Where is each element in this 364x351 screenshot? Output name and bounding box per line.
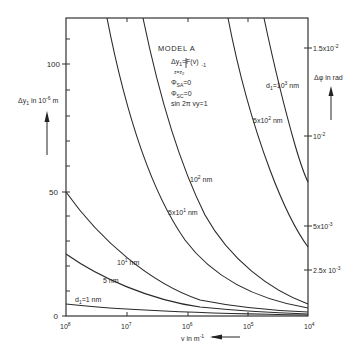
x-tick-1e7: 107 xyxy=(121,321,132,330)
y-tick-100: 100 xyxy=(47,60,61,69)
x-tick-1e8: 108 xyxy=(60,321,71,330)
curve-5nm xyxy=(66,254,308,314)
label-10nm: 101 nm xyxy=(117,257,139,266)
y2-axis-label: Δφ in rad xyxy=(314,74,343,82)
label-5nm: 5 nm xyxy=(103,277,119,284)
phi-sa-condition: ΦSA=0 xyxy=(171,79,191,88)
equation: Δy1=F(v)-1 xyxy=(171,58,206,68)
y2-tick-5e-3: 5x10-3 xyxy=(313,221,333,230)
x-tick-1e5: 105 xyxy=(243,321,254,330)
y2-tick-1.5e-2: 1.5x10-2 xyxy=(313,43,339,52)
curve-500nm xyxy=(228,18,308,247)
y2-tick-2.5e-3: 2.5x 10-3 xyxy=(313,265,341,274)
x-tick-1e4: 104 xyxy=(304,321,315,330)
x-tick-1e6: 106 xyxy=(182,321,193,330)
curve-1000nm xyxy=(264,18,308,182)
y2-axis-arrow-icon xyxy=(329,86,334,120)
y-axis-arrow-icon xyxy=(45,111,50,155)
label-50nm: 5x101 nm xyxy=(168,207,198,216)
phi-sc-condition: ΦSC=0 xyxy=(171,90,192,99)
y2-tick-1e-2: 10-2 xyxy=(313,131,325,140)
curve-100nm xyxy=(143,18,308,304)
y-axis-label: Δy1 in 10-6 m xyxy=(18,95,58,106)
y-tick-0: 0 xyxy=(54,312,59,321)
x-axis-arrow-icon xyxy=(210,335,240,340)
x-axis-label: v in m-1 xyxy=(181,333,204,342)
label-500nm: 5x102 nm xyxy=(253,115,283,124)
sin-condition: sin 2π vy=1 xyxy=(171,100,208,108)
equation-condition: z=z2 xyxy=(174,69,185,76)
label-1000nm: d1=103 nm xyxy=(266,80,299,91)
label-1nm: d1=1 nm xyxy=(75,296,102,305)
model-title: MODEL A xyxy=(158,44,195,53)
chart-figure: 0 50 100 Δy1 in 10-6 m 108 107 106 105 1… xyxy=(0,0,364,351)
label-100nm: 102 nm xyxy=(190,174,212,183)
y-tick-50: 50 xyxy=(49,188,58,197)
